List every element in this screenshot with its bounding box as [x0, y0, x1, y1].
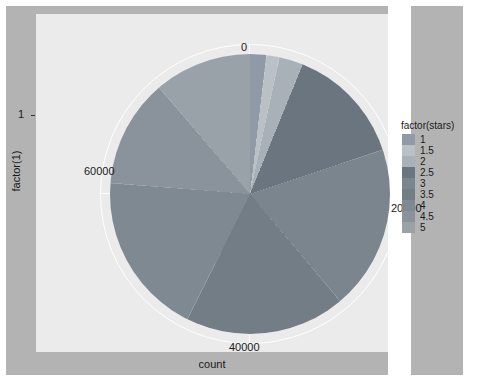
legend-items: 11.522.533.544.55	[402, 134, 482, 233]
legend-item: 3.5	[402, 189, 482, 200]
pie-slices	[110, 54, 390, 334]
legend-item: 5	[402, 222, 482, 233]
legend-item: 4.5	[402, 211, 482, 222]
legend-label: 5	[420, 222, 426, 233]
legend-label: 2.5	[420, 167, 434, 178]
legend-item: 3	[402, 178, 482, 189]
legend-swatch	[402, 156, 415, 167]
y-axis-tick-mark	[31, 115, 35, 116]
legend-swatch	[402, 200, 415, 211]
legend-item: 4	[402, 200, 482, 211]
legend-label: 1.5	[420, 145, 434, 156]
plot-panel: 0 20000 40000 60000	[36, 14, 388, 352]
legend-swatch	[402, 134, 415, 145]
legend-swatch	[402, 189, 415, 200]
legend-label: 3.5	[420, 189, 434, 200]
legend: factor(stars) 11.522.533.544.55	[402, 120, 482, 233]
legend-label: 4.5	[420, 211, 434, 222]
y-axis-tick-label: 1	[18, 108, 24, 120]
x-axis-title: count	[36, 358, 388, 370]
legend-swatch	[402, 222, 415, 233]
radial-tick-60000: 60000	[84, 165, 115, 177]
radial-tick-0: 0	[241, 41, 247, 53]
legend-swatch	[402, 211, 415, 222]
y-axis-title: factor(1)	[10, 131, 22, 211]
legend-swatch	[402, 178, 415, 189]
legend-title: factor(stars)	[401, 120, 482, 131]
legend-label: 4	[420, 200, 426, 211]
chart-root: 0 20000 40000 60000 1 factor(1) count fa…	[0, 0, 483, 381]
legend-label: 2	[420, 156, 426, 167]
legend-item: 1	[402, 134, 482, 145]
legend-item: 2	[402, 156, 482, 167]
legend-swatch	[402, 145, 415, 156]
legend-label: 1	[420, 134, 426, 145]
legend-item: 2.5	[402, 167, 482, 178]
legend-swatch	[402, 167, 415, 178]
radial-tick-40000: 40000	[229, 341, 260, 353]
legend-item: 1.5	[402, 145, 482, 156]
legend-label: 3	[420, 178, 426, 189]
